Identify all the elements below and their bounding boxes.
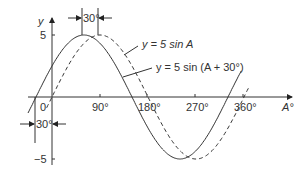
legend-label-5sinA-text: y = 5 sin A xyxy=(141,38,193,50)
sine-chart: y 5 −5 0 90° 180° 270° 360° A° 30° 30° y… xyxy=(0,0,305,183)
y-axis-label: y xyxy=(37,15,45,27)
shift-label-top: 30° xyxy=(83,12,100,24)
shift-label-bottom: 30° xyxy=(36,118,53,130)
tick-label-neg5: −5 xyxy=(34,153,47,165)
legend-label-5sinA: y = 5 sin A xyxy=(141,38,193,50)
tick-label-180: 180° xyxy=(138,101,161,113)
tick-label-0: 0 xyxy=(40,101,46,113)
tick-label-360: 360° xyxy=(234,101,257,113)
tick-label-5: 5 xyxy=(40,29,46,41)
x-axis-label: A° xyxy=(281,101,294,113)
legend-label-5sinA-plus30: y = 5 sin (A + 30°) xyxy=(156,61,244,73)
leader-1 xyxy=(124,46,138,55)
tick-label-270: 270° xyxy=(186,101,209,113)
tick-label-90: 90° xyxy=(92,101,109,113)
